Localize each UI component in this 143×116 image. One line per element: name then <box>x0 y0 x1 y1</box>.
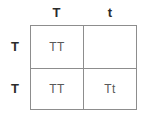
column-header-allele-1: T <box>30 5 83 21</box>
punnett-cell-row1-col2 <box>84 26 137 69</box>
punnett-cell-row2-col2: Tt <box>84 69 137 110</box>
column-header-allele-2: t <box>83 5 137 21</box>
punnett-grid: TT TT Tt <box>30 25 137 110</box>
punnett-cell-row1-col1: TT <box>31 26 84 69</box>
punnett-cell-row2-col1: TT <box>31 69 84 110</box>
punnett-square-diagram: T t T T TT TT Tt <box>0 0 143 116</box>
row-label-allele-2: T <box>2 81 28 97</box>
row-label-allele-1: T <box>2 39 28 55</box>
